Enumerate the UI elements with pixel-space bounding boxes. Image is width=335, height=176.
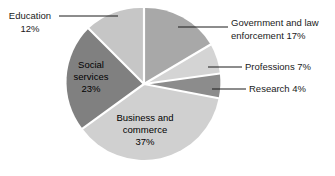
slice-label-professions-line1: Professions 7%: [245, 61, 311, 74]
pie-chart-figure: Education 12% Government and law enforce…: [0, 0, 335, 176]
slice-label-social-services-line2: services: [60, 71, 122, 83]
slice-label-business-line2: commerce: [102, 124, 188, 136]
slice-label-education-value: 12%: [2, 23, 58, 36]
slice-label-government: Government and law enforcement 17%: [231, 17, 319, 42]
slice-label-professions: Professions 7%: [245, 61, 311, 74]
slice-label-research-line1: Research 4%: [249, 83, 306, 96]
slice-label-government-line1: Government and law: [231, 17, 319, 30]
slice-label-business-value: 37%: [102, 136, 188, 148]
slice-label-education: Education 12%: [2, 10, 58, 35]
slice-label-education-line1: Education: [2, 10, 58, 23]
slice-label-social-services: Social services 23%: [60, 59, 122, 95]
slice-label-social-services-value: 23%: [60, 83, 122, 95]
slice-label-research: Research 4%: [249, 83, 306, 96]
slice-label-business: Business and commerce 37%: [102, 112, 188, 148]
slice-label-business-line1: Business and: [102, 112, 188, 124]
slice-label-social-services-line1: Social: [60, 59, 122, 71]
slice-label-government-line2: enforcement 17%: [231, 30, 319, 43]
